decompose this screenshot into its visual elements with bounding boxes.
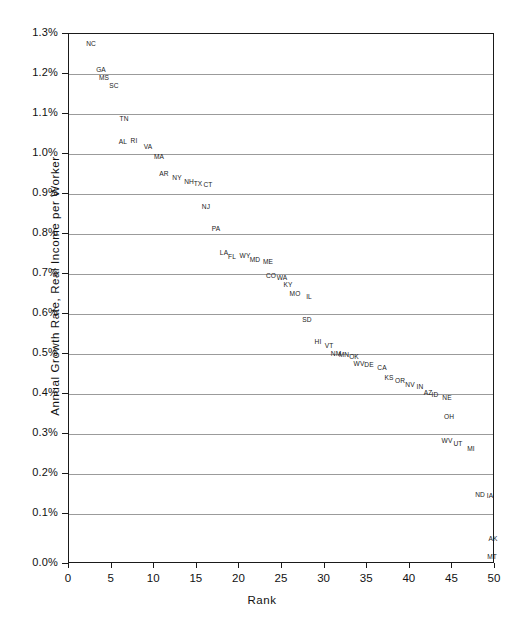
data-point-label: GA [96,66,106,73]
x-tick-label: 30 [304,572,344,584]
x-tick-mark [451,563,452,568]
x-axis-title: Rank [0,594,524,606]
data-point-label: MT [487,553,497,560]
y-tick-label: 0.4% [6,386,58,398]
x-tick-label: 15 [176,572,216,584]
x-tick-mark [196,563,197,568]
x-tick-label: 35 [346,572,386,584]
data-point-label: OR [395,377,405,384]
data-point-label: IL [306,293,312,300]
y-tick-label: 0.5% [6,346,58,358]
data-point-label: MN [339,351,349,358]
data-point-label: LA [220,249,228,256]
data-point-label: RI [131,137,138,144]
data-point-label: TN [120,115,129,122]
data-point-label: MD [250,256,260,263]
data-point-label: NE [442,394,451,401]
x-tick-mark [281,563,282,568]
gridline [69,354,493,355]
x-tick-mark [409,563,410,568]
x-tick-mark [366,563,367,568]
y-tick-label: 1.2% [6,66,58,78]
data-point-label: CO [266,272,276,279]
y-tick-label: 0.1% [6,506,58,518]
data-point-label: WV [354,360,365,367]
y-tick-label: 1.1% [6,106,58,118]
data-point-label: IN [417,383,424,390]
x-tick-label: 40 [389,572,429,584]
y-tick-label: 0.2% [6,466,58,478]
data-point-label: NC [86,40,96,47]
gridline [69,474,493,475]
data-point-label: VT [325,342,334,349]
data-point-label: MI [467,445,475,452]
x-tick-mark [238,563,239,568]
data-point-label: KS [385,374,394,381]
y-tick-label: 0.9% [6,186,58,198]
data-point-label: NJ [202,203,210,210]
data-point-label: NY [172,174,181,181]
data-point-label: VA [144,143,153,150]
data-point-label: HI [315,338,322,345]
data-point-label: WA [277,274,288,281]
x-tick-label: 20 [218,572,258,584]
data-point-label: OH [444,413,454,420]
data-point-label: SC [109,82,118,89]
x-tick-label: 5 [91,572,131,584]
data-point-label: NV [405,381,414,388]
plot-area: NCGAMSSCTNALRIVAMAARNYNHTXCTNJPALAFLWYMD… [68,33,494,563]
gridline [69,114,493,115]
data-point-label: PA [212,225,221,232]
data-point-label: CT [204,181,213,188]
data-point-label: DE [364,361,373,368]
y-tick-label: 0.6% [6,306,58,318]
y-tick-label: 0.8% [6,226,58,238]
y-tick-label: 0.7% [6,266,58,278]
data-point-label: AL [119,138,127,145]
y-tick-label: 0.0% [6,556,58,568]
data-point-label: MA [154,153,164,160]
x-tick-label: 25 [261,572,301,584]
data-point-label: MO [290,290,301,297]
x-tick-mark [153,563,154,568]
gridline [69,154,493,155]
data-point-label: OK [349,353,359,360]
x-tick-label: 10 [133,572,173,584]
gridline [69,314,493,315]
data-point-label: AR [159,170,168,177]
y-tick-label: 0.3% [6,426,58,438]
x-tick-mark [324,563,325,568]
data-point-label: FL [228,253,236,260]
x-tick-mark [111,563,112,568]
x-tick-mark [68,563,69,568]
data-point-label: CA [377,364,386,371]
x-tick-label: 0 [48,572,88,584]
data-point-label: KY [284,281,293,288]
data-point-label: NH [184,178,194,185]
data-point-label: MS [99,74,109,81]
data-point-label: ME [263,258,273,265]
gridline [69,514,493,515]
y-tick-label: 1.3% [6,26,58,38]
x-tick-label: 45 [431,572,471,584]
data-point-label: UT [454,440,463,447]
gridline [69,434,493,435]
x-tick-mark [494,563,495,568]
data-point-label: TX [194,180,203,187]
y-tick-label: 1.0% [6,146,58,158]
data-point-label: IA [487,492,493,499]
scatter-chart-figure: Annual Growth Rate, Real Income per Work… [0,0,524,626]
data-point-label: ND [475,491,485,498]
data-point-label: ID [432,391,439,398]
data-point-label: AK [489,535,498,542]
gridline [69,74,493,75]
gridline [69,194,493,195]
data-point-label: SD [302,316,311,323]
x-tick-label: 50 [474,572,514,584]
data-point-label: WV [442,437,453,444]
gridline [69,234,493,235]
